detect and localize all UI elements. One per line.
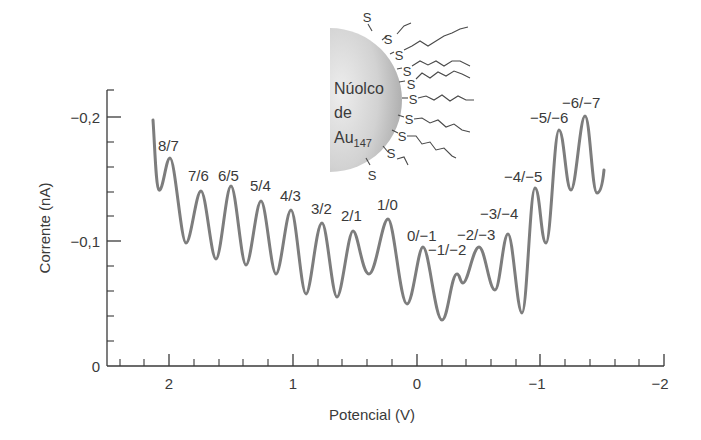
sulfur-label: S bbox=[368, 168, 377, 183]
peak-label: −5/−6 bbox=[530, 109, 568, 126]
peak-label: 8/7 bbox=[158, 137, 179, 154]
peak-label: −4/−5 bbox=[504, 168, 542, 185]
nanoparticle-inset: S S S S S S S S S S Núolco de Au147 bbox=[330, 10, 474, 183]
sulfur-label: S bbox=[398, 129, 407, 144]
core-label-line1: Núolco bbox=[334, 80, 384, 97]
x-tick-label: 0 bbox=[413, 375, 421, 392]
core-subscript: 147 bbox=[354, 137, 372, 149]
sulfur-label: S bbox=[405, 112, 414, 127]
sulfur-label: S bbox=[363, 10, 372, 25]
sulfur-label: S bbox=[409, 92, 418, 107]
x-tick-label: 1 bbox=[289, 375, 297, 392]
sulfur-label: S bbox=[387, 146, 396, 161]
x-axis bbox=[107, 354, 664, 366]
y-tick-label: 0 bbox=[92, 358, 100, 375]
sulfur-label: S bbox=[384, 32, 393, 47]
chart-canvas: −0,2 −0,1 0 Corrente (nA) 2 1 0 −1 −2 Po… bbox=[0, 0, 701, 440]
peak-label: −1/−2 bbox=[428, 241, 466, 258]
sulfur-label: S bbox=[395, 48, 404, 63]
peak-label: −2/−3 bbox=[457, 226, 495, 243]
core-element: Au bbox=[334, 129, 354, 146]
x-tick-label: −2 bbox=[651, 375, 668, 392]
peak-label: 3/2 bbox=[311, 200, 332, 217]
core-label-line2: de bbox=[334, 104, 352, 121]
peak-label: 4/3 bbox=[280, 187, 301, 204]
x-tick-label: −1 bbox=[528, 375, 545, 392]
y-axis bbox=[107, 90, 121, 366]
y-tick-label: −0,1 bbox=[70, 233, 100, 250]
y-tick-label: −0,2 bbox=[70, 109, 100, 126]
x-tick-label: 2 bbox=[165, 375, 173, 392]
sulfur-label: S bbox=[407, 77, 416, 92]
peak-label: 7/6 bbox=[188, 167, 209, 184]
peak-label: 2/1 bbox=[341, 207, 362, 224]
peak-label: −3/−4 bbox=[480, 205, 518, 222]
y-axis-title: Corrente (nA) bbox=[36, 183, 53, 274]
peak-label: 5/4 bbox=[250, 177, 271, 194]
peak-label: 1/0 bbox=[377, 196, 398, 213]
peak-label: −6/−7 bbox=[562, 94, 600, 111]
peak-label: 6/5 bbox=[218, 167, 239, 184]
x-axis-title: Potencial (V) bbox=[329, 406, 415, 423]
